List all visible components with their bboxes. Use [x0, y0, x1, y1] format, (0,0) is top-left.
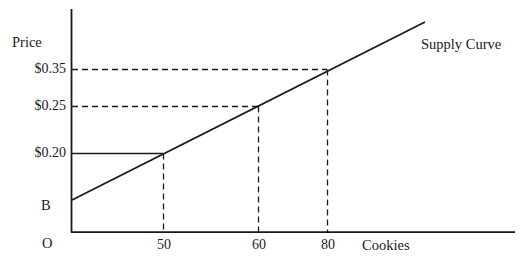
supply-curve-label: Supply Curve: [421, 37, 501, 52]
price-tick-035: $0.35: [6, 62, 66, 76]
qty-tick-60: 60: [239, 238, 279, 252]
supply-curve-figure: Price $0.35 $0.25 $0.20 B O 50 60 80 Coo…: [0, 0, 531, 269]
intercept-label-b: B: [41, 198, 51, 213]
supply-curve-line: [72, 22, 425, 200]
price-tick-020: $0.20: [6, 146, 66, 160]
y-axis-title: Price: [12, 35, 42, 50]
origin-label-o: O: [42, 236, 52, 251]
qty-tick-50: 50: [144, 238, 184, 252]
price-tick-025: $0.25: [6, 99, 66, 113]
qty-tick-80: 80: [308, 238, 348, 252]
x-axis-title: Cookies: [362, 238, 410, 253]
